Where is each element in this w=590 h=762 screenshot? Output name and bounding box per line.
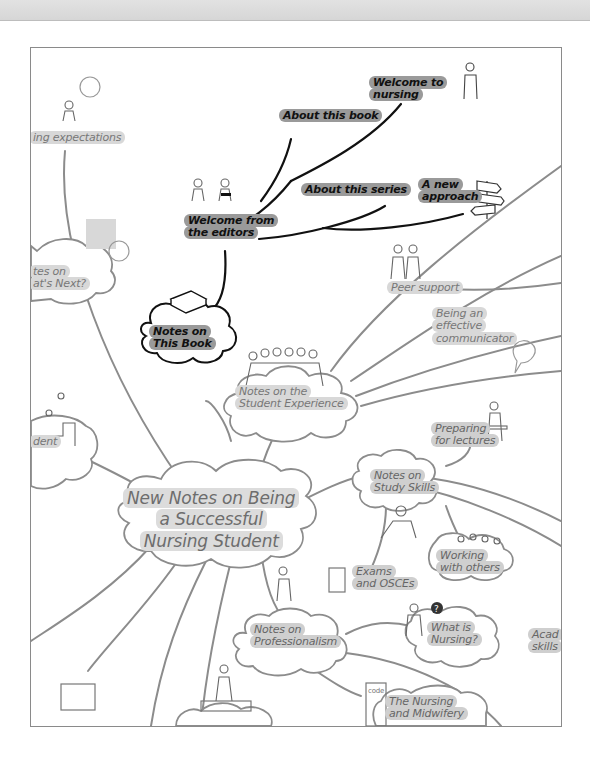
node-label: A new	[418, 178, 463, 191]
central-topic-line: Nursing Student	[140, 531, 283, 551]
node-label: What is	[427, 621, 475, 634]
central-topic[interactable]: New Notes on Being a Successful Nursing …	[123, 488, 299, 552]
node-about-this-book[interactable]: About this book	[279, 110, 382, 122]
node-label: Welcome to	[369, 76, 447, 89]
node-preparing-lectures[interactable]: Preparing for lectures	[431, 423, 499, 448]
node-label: The Nursing	[385, 695, 457, 708]
node-label: Professionalism	[250, 635, 341, 648]
node-welcome-from-editors[interactable]: Welcome from the editors	[184, 215, 278, 240]
svg-text:?: ?	[434, 604, 439, 614]
node-label: Nursing?	[427, 633, 482, 646]
node-expectations[interactable]: ing expectations	[30, 132, 125, 144]
node-exams-osces[interactable]: Exams and OSCEs	[352, 566, 418, 591]
node-label: communicator	[432, 332, 517, 345]
node-welcome-to-nursing[interactable]: Welcome to nursing	[369, 77, 447, 102]
node-label: Notes on	[149, 325, 211, 338]
node-working-with-others[interactable]: Working with others	[436, 550, 504, 575]
node-label: Preparing	[431, 422, 490, 435]
node-label: About this book	[279, 109, 382, 122]
node-nursing-midwifery[interactable]: The Nursing and Midwifery	[385, 696, 468, 721]
central-topic-line: a Successful	[156, 509, 267, 529]
node-label: the editors	[184, 226, 258, 239]
node-label: with others	[436, 561, 504, 574]
node-label: at's Next?	[30, 277, 90, 290]
node-about-this-series[interactable]: About this series	[301, 184, 411, 196]
node-label: Study Skills	[370, 481, 439, 494]
node-label: Welcome from	[184, 214, 278, 227]
node-label: This Book	[149, 337, 216, 350]
node-study-skills[interactable]: Notes on Study Skills	[370, 470, 439, 495]
node-label: About this series	[301, 183, 411, 196]
node-label: Exams	[352, 565, 396, 578]
node-a-new-approach[interactable]: A new approach	[418, 179, 482, 204]
node-effective-communicator[interactable]: Being an effective communicator	[432, 308, 517, 345]
node-label: Notes on	[370, 469, 425, 482]
node-label: Working	[436, 549, 488, 562]
node-what-is-nursing[interactable]: What is Nursing?	[427, 622, 482, 647]
node-label: Notes on the	[235, 385, 311, 398]
code-book-icon: code	[368, 688, 384, 696]
node-label: Peer support	[387, 281, 463, 294]
node-student[interactable]: dent	[30, 436, 61, 448]
node-label: for lectures	[431, 434, 499, 447]
node-label: and Midwifery	[385, 707, 468, 720]
node-label: tes on	[30, 265, 70, 278]
node-label: skills	[528, 640, 562, 653]
node-label: ing expectations	[30, 131, 125, 144]
node-notes-on-this-book[interactable]: Notes on This Book	[149, 326, 216, 351]
node-label: effective	[432, 319, 486, 332]
central-topic-line: New Notes on Being	[123, 488, 299, 508]
node-label: dent	[30, 435, 61, 448]
node-label: approach	[418, 190, 482, 203]
node-label: Student Experience	[235, 397, 348, 410]
node-label: and OSCEs	[352, 577, 418, 590]
node-label: Notes on	[250, 623, 305, 636]
node-label: Acad	[528, 628, 562, 641]
node-student-experience[interactable]: Notes on the Student Experience	[235, 386, 348, 411]
node-label: Being an	[432, 307, 487, 320]
mind-map-frame: ? Welcome	[30, 47, 562, 727]
node-professionalism[interactable]: Notes on Professionalism	[250, 624, 341, 649]
node-academic-skills[interactable]: Acad skills	[528, 629, 562, 654]
node-label: nursing	[369, 88, 423, 101]
node-whats-next[interactable]: tes on at's Next?	[30, 266, 90, 291]
node-peer-support[interactable]: Peer support	[387, 282, 463, 294]
top-bar	[0, 0, 590, 21]
